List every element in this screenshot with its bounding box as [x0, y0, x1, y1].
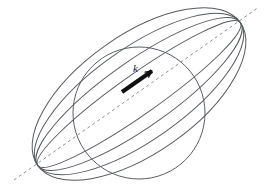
wave-vector-sphere-diagram: k [0, 0, 270, 191]
figure-root: k [0, 0, 270, 191]
background-rect [0, 0, 270, 191]
